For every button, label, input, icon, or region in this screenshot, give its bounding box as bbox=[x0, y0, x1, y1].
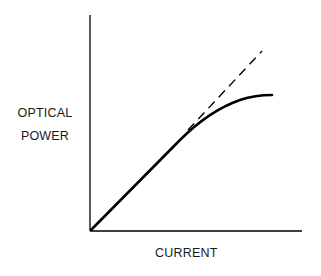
y-axis-label-line2: POWER bbox=[15, 125, 75, 148]
y-axis-label-line1: OPTICAL bbox=[15, 102, 75, 125]
y-axis-label: OPTICAL POWER bbox=[15, 102, 75, 148]
x-axis-label: CURRENT bbox=[155, 246, 218, 260]
solid-power-curve bbox=[91, 95, 272, 230]
dashed-linear-extrapolation bbox=[188, 51, 262, 130]
